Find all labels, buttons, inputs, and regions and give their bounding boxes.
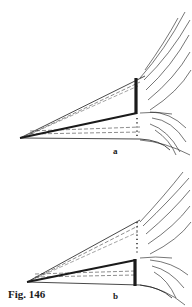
wedge-lower-edge	[27, 282, 172, 298]
feather-strokes-icon	[140, 12, 191, 155]
panel-a-drawing	[20, 12, 191, 155]
panel-b-drawing	[27, 172, 191, 305]
panel-b-label: b	[113, 291, 118, 301]
figure-caption: Fig. 146	[8, 288, 45, 300]
thick-inner-line	[20, 113, 137, 138]
feather-strokes-icon	[140, 172, 191, 305]
wedge-lower-edge	[20, 138, 170, 150]
figure-drawing	[0, 0, 192, 307]
thick-inner-line	[27, 260, 136, 282]
panel-a-label: a	[113, 146, 118, 156]
wedge-upper-edge	[20, 76, 145, 138]
